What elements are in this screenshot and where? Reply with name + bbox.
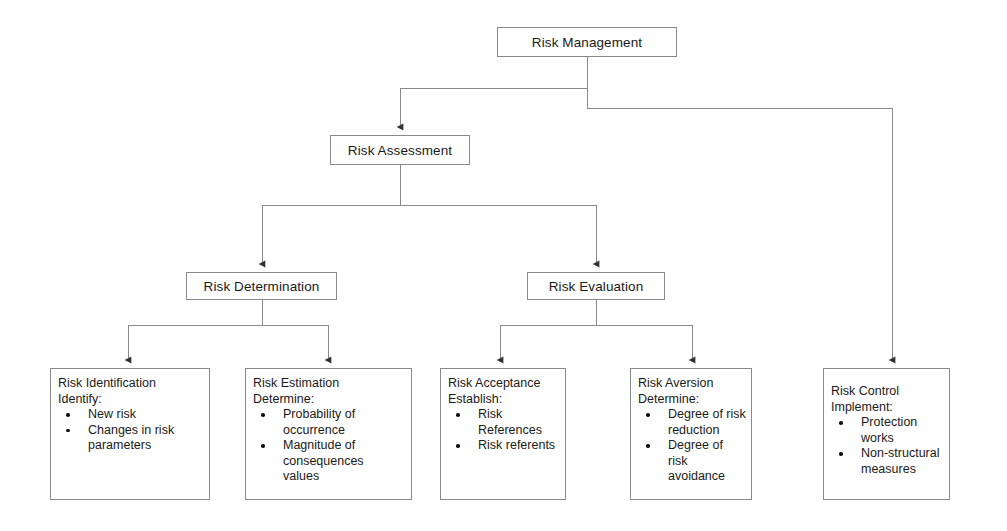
bullet-icon (66, 413, 70, 417)
node-risk-evaluation[interactable]: Risk Evaluation (527, 272, 665, 300)
node-risk-identification-title: Risk Identification (58, 376, 203, 392)
list-item: Changes in risk parameters (58, 423, 203, 454)
list-item: Probability of occurrence (253, 407, 405, 438)
bullet-text: Risk referents (478, 438, 559, 454)
node-risk-acceptance-title: Risk Acceptance (448, 376, 559, 392)
list-item: Degree of risk avoidance (638, 438, 745, 485)
list-item: New risk (58, 407, 203, 423)
node-risk-control[interactable]: Risk Control Implement: Protection works… (823, 368, 950, 500)
node-risk-aversion[interactable]: Risk Aversion Determine: Degree of risk … (630, 368, 752, 500)
node-risk-control-subtitle: Implement: (831, 400, 943, 416)
bullet-text: Probability of occurrence (283, 407, 383, 438)
bullet-icon (261, 413, 265, 417)
bullet-icon (66, 429, 70, 433)
node-risk-management-label: Risk Management (532, 35, 642, 50)
bullet-text: Non-structural measures (861, 446, 951, 477)
list-item: Magnitude of consequences values (253, 438, 405, 485)
bullet-icon (261, 444, 265, 448)
node-risk-determination-label: Risk Determination (204, 279, 320, 294)
list-item: Degree of risk reduction (638, 407, 745, 438)
node-risk-estimation[interactable]: Risk Estimation Determine: Probability o… (245, 368, 412, 500)
node-risk-aversion-title: Risk Aversion (638, 376, 745, 392)
bullet-text: New risk (88, 407, 203, 423)
node-risk-estimation-title: Risk Estimation (253, 376, 405, 392)
node-risk-identification[interactable]: Risk Identification Identify: New risk C… (50, 368, 210, 500)
node-risk-acceptance[interactable]: Risk Acceptance Establish: Risk Referenc… (440, 368, 566, 500)
node-risk-acceptance-bullets: Risk References Risk referents (448, 407, 559, 454)
node-risk-determination[interactable]: Risk Determination (186, 272, 337, 300)
list-item: Risk referents (448, 438, 559, 454)
list-item: Non-structural measures (831, 446, 943, 477)
list-item: Protection works (831, 415, 943, 446)
node-risk-estimation-subtitle: Determine: (253, 392, 405, 408)
bullet-icon (456, 444, 460, 448)
bullet-text: Degree of risk avoidance (668, 438, 724, 485)
node-risk-control-title: Risk Control (831, 384, 943, 400)
node-risk-aversion-bullets: Degree of risk reduction Degree of risk … (638, 407, 745, 485)
bullet-text: Protection works (861, 415, 933, 446)
diagram-canvas: Risk Management Risk Assessment Risk Det… (0, 0, 1007, 531)
bullet-text: Risk References (478, 407, 550, 438)
bullet-icon (646, 413, 650, 417)
bullet-text: Changes in risk parameters (88, 423, 208, 454)
node-risk-management[interactable]: Risk Management (497, 27, 677, 57)
bullet-icon (839, 452, 843, 456)
node-risk-evaluation-label: Risk Evaluation (549, 279, 644, 294)
node-risk-identification-bullets: New risk Changes in risk parameters (58, 407, 203, 454)
node-risk-aversion-subtitle: Determine: (638, 392, 745, 408)
node-risk-acceptance-subtitle: Establish: (448, 392, 559, 408)
bullet-text: Degree of risk reduction (668, 407, 750, 438)
list-item: Risk References (448, 407, 559, 438)
node-risk-assessment-label: Risk Assessment (348, 143, 452, 158)
node-risk-identification-subtitle: Identify: (58, 392, 203, 408)
bullet-icon (646, 444, 650, 448)
node-risk-assessment[interactable]: Risk Assessment (330, 135, 470, 165)
node-risk-control-bullets: Protection works Non-structural measures (831, 415, 943, 477)
bullet-icon (456, 413, 460, 417)
bullet-text: Magnitude of consequences values (283, 438, 383, 485)
node-risk-estimation-bullets: Probability of occurrence Magnitude of c… (253, 407, 405, 485)
bullet-icon (839, 421, 843, 425)
